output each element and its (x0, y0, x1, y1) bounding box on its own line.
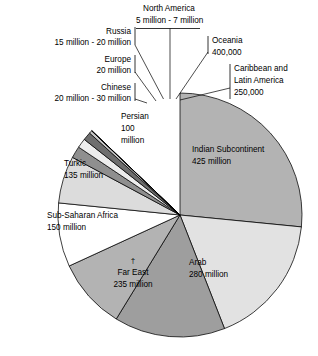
slice-label-persian-line1: Persian (121, 112, 149, 121)
slice-label-turkic-line1: Turkic (64, 159, 86, 168)
callout-caribbean-line2: Latin America (234, 76, 284, 85)
callout-caribbean-line1: Caribbean and (234, 64, 288, 73)
slice-label-indian-line1: Indian Subcontinent (192, 145, 265, 154)
leader-chinese (135, 99, 147, 103)
slice-label-turkic-line2: 135 million (64, 171, 104, 180)
leader-oceania (176, 52, 208, 99)
callout-russia-line2: 15 million - 20 million (55, 38, 132, 47)
pie-chart-svg: North America 5 million - 7 million Russ… (0, 0, 318, 356)
slice-label-far-east-line1: Far East (118, 268, 150, 277)
pie-chart-figure: North America 5 million - 7 million Russ… (0, 0, 318, 356)
slice-label-arab-line1: Arab (189, 258, 207, 267)
leader-europe (135, 72, 156, 101)
slice-label-sub-saharan-line1: Sub-Saharan Africa (47, 211, 118, 220)
callout-chinese-line1: Chinese (101, 83, 131, 92)
slice-label-persian-line2: 100 (121, 124, 135, 133)
slice-label-persian-line3: million (121, 136, 145, 145)
callout-europe-line2: 20 million (96, 66, 131, 75)
leader-russia (135, 45, 164, 99)
slice-label-far-east-marker: † (131, 256, 135, 265)
callout-north-america-line2: 5 million - 7 million (136, 16, 204, 25)
slice-label-far-east-line2: 235 million (113, 280, 153, 289)
callout-russia-line1: Russia (106, 27, 131, 36)
callout-oceania-line2: 400,000 (212, 48, 242, 57)
callout-oceania-line1: Oceania (212, 36, 243, 45)
slice-label-indian-line2: 425 million (192, 157, 232, 166)
slice-label-sub-saharan-line2: 150 million (47, 223, 87, 232)
callout-caribbean-line3: 250,000 (234, 88, 264, 97)
slice-label-arab-line2: 280 million (189, 270, 229, 279)
callout-chinese-line2: 20 million - 30 million (55, 94, 132, 103)
callout-north-america-line1: North America (143, 4, 195, 13)
callout-europe-line1: Europe (105, 55, 132, 64)
callout-labels: North America 5 million - 7 million Russ… (55, 4, 289, 103)
